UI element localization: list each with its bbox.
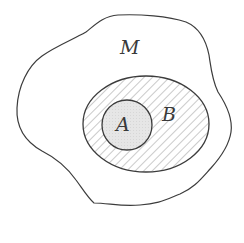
set-diagram: M B A: [0, 0, 244, 243]
label-b: B: [161, 103, 176, 125]
label-a: A: [114, 113, 130, 135]
label-m: M: [119, 36, 140, 58]
